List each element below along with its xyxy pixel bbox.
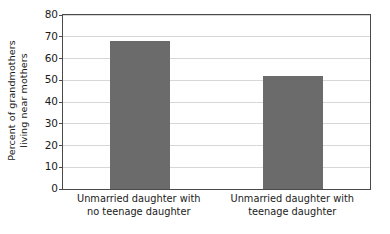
y-axis-tick-mark <box>59 80 63 81</box>
bar-chart-figure: Percent of grandmothers living near moth… <box>0 0 390 234</box>
plot-area <box>62 14 371 190</box>
x-axis-category-label: Unmarried daughter withno teenage daught… <box>62 193 216 218</box>
gridline <box>63 15 370 16</box>
y-axis-tick-label: 20 <box>32 139 58 150</box>
y-axis-tick-mark <box>59 123 63 124</box>
x-axis-category-label-line: no teenage daughter <box>62 206 216 219</box>
x-axis-category-label-line: Unmarried daughter with <box>216 193 370 206</box>
y-axis-title-line-1: Percent of grandmothers <box>6 40 18 161</box>
y-axis-tick-mark <box>59 102 63 103</box>
y-axis-tick-label: 80 <box>32 9 58 20</box>
bar <box>110 41 170 189</box>
y-axis-title-line-2: living near mothers <box>17 40 29 161</box>
x-axis-category-label-line: teenage daughter <box>216 206 370 219</box>
bar <box>263 76 323 189</box>
y-axis-tick-label: 0 <box>32 183 58 194</box>
x-axis-category-label: Unmarried daughter withteenage daughter <box>216 193 370 218</box>
y-axis-tick-mark <box>59 58 63 59</box>
y-axis-tick-labels: 01020304050607080 <box>30 0 58 234</box>
y-axis-tick-label: 50 <box>32 74 58 85</box>
y-axis-tick-mark <box>59 189 63 190</box>
gridline <box>63 36 370 37</box>
plot-inner <box>63 15 370 189</box>
y-axis-tick-label: 40 <box>32 96 58 107</box>
y-axis-title: Percent of grandmothers living near moth… <box>0 0 34 200</box>
y-axis-tick-mark <box>59 145 63 146</box>
y-axis-tick-label: 60 <box>32 52 58 63</box>
x-axis-category-label-line: Unmarried daughter with <box>62 193 216 206</box>
y-axis-tick-mark <box>59 167 63 168</box>
y-axis-tick-label: 70 <box>32 31 58 42</box>
x-axis-category-labels: Unmarried daughter withno teenage daught… <box>62 193 371 233</box>
y-axis-tick-mark <box>59 15 63 16</box>
y-axis-tick-label: 30 <box>32 118 58 129</box>
y-axis-tick-mark <box>59 36 63 37</box>
y-axis-tick-label: 10 <box>32 161 58 172</box>
